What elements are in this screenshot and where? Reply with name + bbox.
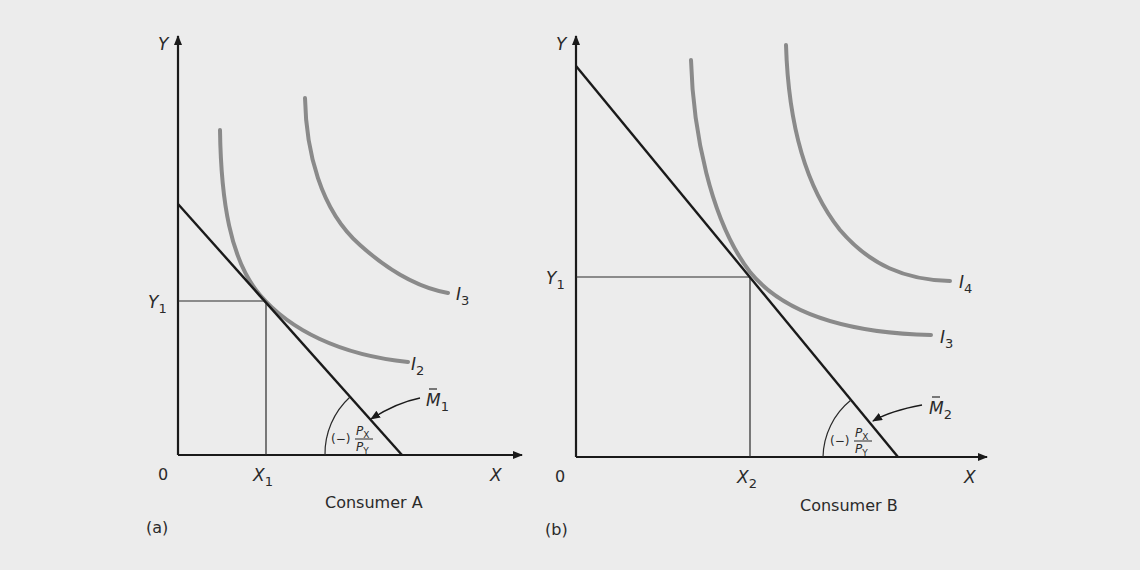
consumer-a-caption: Consumer A <box>325 493 423 512</box>
figure: Y X 0 Y1 X1 I2 I3 M1 (−) PX PY Consumer … <box>0 0 1140 570</box>
i4-label: I4 <box>959 272 972 296</box>
m1-label: M1 <box>426 390 449 414</box>
slope-sign: (−) <box>331 432 350 446</box>
y-axis-label: Y <box>158 34 170 54</box>
panel-a-label: (a) <box>146 518 168 537</box>
slope-denominator: PY <box>356 440 369 456</box>
consumer-b-caption: Consumer B <box>800 496 898 515</box>
y-axis-label: Y <box>556 34 568 54</box>
slope-denominator: PY <box>855 442 868 458</box>
slope-numerator: PX <box>356 424 369 440</box>
origin-label: 0 <box>158 465 168 484</box>
i3-label: I3 <box>456 284 469 308</box>
budget-line-m1 <box>178 204 402 455</box>
indifference-curve-i4 <box>786 45 950 281</box>
indifference-curve-i3 <box>305 98 448 293</box>
x1-tick-label: X1 <box>252 465 273 489</box>
y1-tick-label: Y1 <box>148 292 167 316</box>
x2-tick-label: X2 <box>736 467 757 491</box>
m2-label: M2 <box>929 398 952 422</box>
slope-angle-arc <box>823 400 851 457</box>
budget-line-m2 <box>576 66 898 457</box>
x-axis-label: X <box>963 467 976 487</box>
i3-label: I3 <box>940 327 953 351</box>
i2-label: I2 <box>411 354 424 378</box>
y1-tick-label: Y1 <box>546 268 565 292</box>
m2-pointer-arrow <box>873 405 922 421</box>
indifference-curve-i3 <box>691 60 931 335</box>
x-axis-label: X <box>489 465 502 485</box>
slope-angle-arc <box>325 397 350 455</box>
slope-sign: (−) <box>830 434 849 448</box>
panel-b-label: (b) <box>545 520 568 539</box>
panel-b: Y X 0 Y1 X2 I3 I4 M2 (−) PX PY Consumer … <box>545 34 987 539</box>
slope-numerator: PX <box>855 426 868 442</box>
panel-a: Y X 0 Y1 X1 I2 I3 M1 (−) PX PY Consumer … <box>146 34 522 537</box>
m1-pointer-arrow <box>371 398 420 419</box>
origin-label: 0 <box>555 467 565 486</box>
